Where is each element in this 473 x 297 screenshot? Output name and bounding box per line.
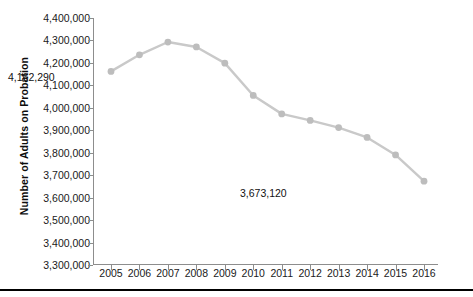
x-axis-tick-mark: [282, 265, 283, 270]
data-label-last-point: 3,673,120: [240, 188, 287, 199]
footer-rule: [0, 289, 473, 291]
x-axis-tick-mark: [339, 265, 340, 270]
data-point-marker: [108, 68, 115, 75]
x-axis-tick-mark: [396, 265, 397, 270]
y-axis-tick-label: 3,700,000: [28, 170, 90, 181]
y-axis-tick-mark: [88, 40, 93, 41]
y-axis-tick-mark: [88, 220, 93, 221]
data-point-marker: [278, 110, 285, 117]
y-axis-tick-mark: [88, 18, 93, 19]
y-axis-tick-label: 4,400,000: [28, 13, 90, 24]
y-axis-tick-label: 3,800,000: [28, 147, 90, 158]
probation-line-chart: Number of Adults on Probation 3,300,0003…: [0, 0, 473, 297]
data-point-marker: [335, 124, 342, 131]
data-label-first-point: 4,162,290: [8, 72, 55, 83]
y-axis-tick-label: 4,300,000: [28, 35, 90, 46]
x-axis-tick-mark: [111, 265, 112, 270]
data-point-marker: [307, 117, 314, 124]
y-axis-tick-label: 4,000,000: [28, 103, 90, 114]
x-axis-tick-mark: [253, 265, 254, 270]
y-axis-tick-mark: [88, 175, 93, 176]
x-axis-tick-mark: [310, 265, 311, 270]
x-axis-tick-mark: [424, 265, 425, 270]
y-axis-tick-label: 3,900,000: [28, 125, 90, 136]
y-axis-tick-mark: [88, 108, 93, 109]
y-axis-tick-mark: [88, 63, 93, 64]
data-point-marker: [421, 178, 428, 185]
data-point-marker: [193, 44, 200, 51]
y-axis-tick-label: 3,300,000: [28, 260, 90, 271]
y-axis-tick-mark: [88, 265, 93, 266]
y-axis-tick-label-group: 3,300,0003,400,0003,500,0003,600,0003,70…: [28, 0, 90, 297]
x-axis-tick-mark: [168, 265, 169, 270]
y-axis-tick-mark: [88, 153, 93, 154]
y-axis-tick-label: 4,200,000: [28, 58, 90, 69]
y-axis-tick-mark: [88, 243, 93, 244]
data-point-marker: [364, 134, 371, 141]
series-polyline: [111, 42, 424, 181]
y-axis-tick-label: 3,500,000: [28, 215, 90, 226]
data-point-marker: [250, 92, 257, 99]
data-point-marker: [392, 152, 399, 159]
y-axis-tick-mark: [88, 130, 93, 131]
data-point-marker: [136, 51, 143, 58]
x-axis-tick-mark: [367, 265, 368, 270]
x-axis-tick-mark: [139, 265, 140, 270]
x-axis-tick-label-group: 2005200620072008200920102011201220132014…: [93, 268, 438, 288]
x-axis-tick-mark: [196, 265, 197, 270]
y-axis-tick-mark: [88, 198, 93, 199]
data-point-marker: [165, 39, 172, 46]
data-series-line: [93, 18, 438, 265]
y-axis-tick-mark: [88, 85, 93, 86]
y-axis-tick-label: 3,400,000: [28, 237, 90, 248]
y-axis-tick-label: 3,600,000: [28, 192, 90, 203]
plot-area: [93, 18, 438, 265]
data-point-marker: [221, 60, 228, 67]
x-axis-tick-mark: [225, 265, 226, 270]
